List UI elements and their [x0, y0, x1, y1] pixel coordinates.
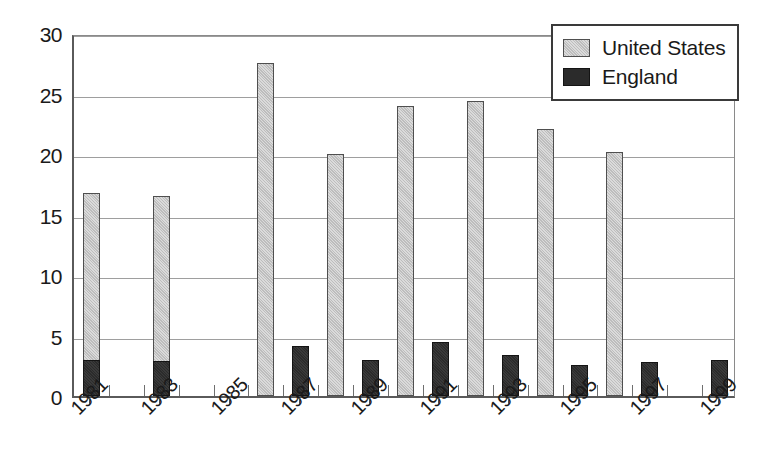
chart-legend: United States England: [551, 24, 739, 101]
x-axis-outer-tick: [508, 398, 509, 404]
x-axis-outer-tick: [369, 398, 370, 404]
legend-swatch-united-states: [563, 39, 590, 57]
x-axis-outer-tick: [578, 398, 579, 404]
y-axis-tick-label: 25: [10, 85, 62, 106]
y-axis-tick-label: 10: [10, 266, 62, 287]
bar-us-1986: [257, 63, 274, 396]
legend-swatch-england: [563, 68, 590, 86]
bar-us-1996: [606, 152, 623, 396]
bar-chart: 051015202530 198119831985198719891991199…: [0, 0, 772, 464]
y-axis-tick-label: 5: [10, 327, 62, 348]
y-axis-tick-label: 15: [10, 206, 62, 227]
legend-item-united-states: United States: [563, 33, 725, 62]
bar-us-1990: [397, 106, 414, 396]
bar-us-1988: [327, 154, 344, 396]
x-axis-outer-tick: [438, 398, 439, 404]
x-axis-outer-tick: [299, 398, 300, 404]
bar-us-1992: [467, 101, 484, 396]
legend-item-england: England: [563, 62, 725, 91]
legend-label-england: England: [602, 66, 678, 87]
y-axis-tick-label: 0: [10, 387, 62, 408]
x-axis-outer-tick: [159, 398, 160, 404]
y-axis-tick-label: 30: [10, 24, 62, 45]
bar-us-1994: [537, 129, 554, 396]
legend-label-united-states: United States: [602, 37, 725, 58]
x-axis-outer-tick: [229, 398, 230, 404]
x-axis-outer-tick: [648, 398, 649, 404]
x-axis-outer-tick: [718, 398, 719, 404]
y-axis-tick-label: 20: [10, 145, 62, 166]
x-axis-outer-tick: [89, 398, 90, 404]
